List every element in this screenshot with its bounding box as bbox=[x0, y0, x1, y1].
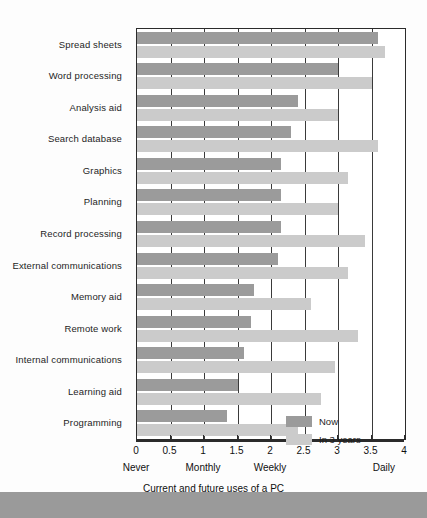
category-label: Record processing bbox=[40, 228, 122, 239]
bar-in-3-years bbox=[137, 267, 348, 279]
x-sub-label: Monthly bbox=[185, 462, 220, 473]
x-tick bbox=[203, 435, 204, 440]
bar-in-3-years bbox=[137, 330, 358, 342]
bar-now bbox=[137, 95, 298, 107]
legend-item-now: Now bbox=[286, 414, 361, 428]
bar-in-3-years bbox=[137, 203, 338, 215]
category-label: Learning aid bbox=[68, 385, 122, 396]
legend-label-now: Now bbox=[319, 416, 338, 427]
bar-row bbox=[137, 158, 405, 184]
bar-in-3-years bbox=[137, 140, 378, 152]
bar-in-3-years bbox=[137, 393, 321, 405]
x-tick bbox=[170, 435, 171, 440]
bar-row bbox=[137, 410, 405, 436]
category-axis-labels: Spread sheetsWord processingAnalysis aid… bbox=[0, 28, 130, 438]
bar-row bbox=[137, 379, 405, 405]
bar-now bbox=[137, 189, 281, 201]
bar-row bbox=[137, 63, 405, 89]
category-label: Planning bbox=[84, 196, 122, 207]
category-label: Memory aid bbox=[71, 291, 122, 302]
bar-in-3-years bbox=[137, 109, 338, 121]
bar-row bbox=[137, 221, 405, 247]
bar-row bbox=[137, 316, 405, 342]
bar-row bbox=[137, 347, 405, 373]
x-tick-label: 3.5 bbox=[364, 445, 378, 456]
category-label: Graphics bbox=[83, 164, 122, 175]
legend-item-in-3-years: In 3 years bbox=[286, 432, 361, 446]
legend-swatch-in-3-years-icon bbox=[286, 434, 312, 445]
category-label: Remote work bbox=[64, 322, 122, 333]
bar-in-3-years bbox=[137, 361, 335, 373]
bar-now bbox=[137, 253, 278, 265]
bar-in-3-years bbox=[137, 298, 311, 310]
bar-in-3-years bbox=[137, 46, 385, 58]
bar-now bbox=[137, 410, 227, 422]
bar-row bbox=[137, 32, 405, 58]
category-label: Search database bbox=[48, 133, 122, 144]
bar-row bbox=[137, 126, 405, 152]
x-tick bbox=[270, 435, 271, 440]
bar-in-3-years bbox=[137, 77, 372, 89]
x-tick-label: 2 bbox=[267, 445, 273, 456]
bar-now bbox=[137, 379, 238, 391]
category-label: Internal communications bbox=[16, 354, 122, 365]
chart-container: Spread sheetsWord processingAnalysis aid… bbox=[0, 0, 427, 518]
bar-row bbox=[137, 284, 405, 310]
plot-area bbox=[136, 28, 406, 440]
chart-legend: Now In 3 years bbox=[286, 414, 361, 450]
bar-in-3-years bbox=[137, 172, 348, 184]
x-sub-label: Weekly bbox=[254, 462, 287, 473]
bar-rows bbox=[137, 29, 405, 439]
bar-now bbox=[137, 284, 254, 296]
bar-now bbox=[137, 158, 281, 170]
x-tick bbox=[404, 435, 405, 440]
bar-row bbox=[137, 95, 405, 121]
bar-now bbox=[137, 63, 338, 75]
x-tick bbox=[371, 435, 372, 440]
category-label: External communications bbox=[12, 259, 122, 270]
footer-band bbox=[0, 492, 427, 518]
bar-now bbox=[137, 32, 378, 44]
x-tick-label: 0 bbox=[133, 445, 139, 456]
x-tick-label: 1 bbox=[200, 445, 206, 456]
category-label: Word processing bbox=[49, 70, 122, 81]
x-tick-label: 4 bbox=[401, 445, 407, 456]
bar-row bbox=[137, 253, 405, 279]
bar-row bbox=[137, 189, 405, 215]
x-sub-label: Daily bbox=[373, 462, 395, 473]
x-sub-label: Never bbox=[123, 462, 150, 473]
x-tick bbox=[136, 435, 137, 440]
x-tick-label: 0.5 bbox=[163, 445, 177, 456]
bar-in-3-years bbox=[137, 235, 365, 247]
bar-now bbox=[137, 221, 281, 233]
bar-now bbox=[137, 126, 291, 138]
bar-now bbox=[137, 316, 251, 328]
legend-label-in-3-years: In 3 years bbox=[319, 434, 361, 445]
x-axis: 00.511.522.533.54NeverMonthlyWeeklyDaily bbox=[136, 440, 404, 442]
category-label: Programming bbox=[63, 417, 122, 428]
legend-swatch-now-icon bbox=[286, 416, 312, 427]
category-label: Spread sheets bbox=[59, 38, 122, 49]
bar-now bbox=[137, 347, 244, 359]
x-tick bbox=[237, 435, 238, 440]
x-tick-label: 1.5 bbox=[230, 445, 244, 456]
category-label: Analysis aid bbox=[70, 101, 123, 112]
bar-in-3-years bbox=[137, 424, 298, 436]
